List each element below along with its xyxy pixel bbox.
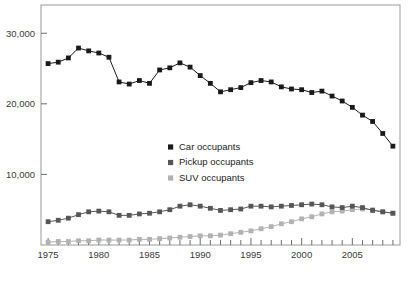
data-point-marker <box>259 204 264 209</box>
data-point-marker <box>76 238 81 243</box>
data-point-marker <box>46 219 51 224</box>
data-point-marker <box>86 238 91 243</box>
data-point-marker <box>56 60 61 65</box>
data-point-marker <box>238 207 243 212</box>
data-point-marker <box>279 204 284 209</box>
data-point-marker <box>218 233 223 238</box>
data-point-marker <box>279 84 284 89</box>
y-tick-label: 10,000 <box>6 169 35 180</box>
x-tick-label: 2000 <box>291 249 312 260</box>
data-point-marker <box>188 202 193 207</box>
data-point-marker <box>360 113 365 118</box>
data-point-marker <box>117 213 122 218</box>
data-point-marker <box>66 216 71 221</box>
data-point-marker <box>56 218 61 223</box>
data-point-marker <box>86 48 91 53</box>
data-point-marker <box>198 204 203 209</box>
data-point-marker <box>370 119 375 124</box>
data-point-marker <box>330 94 335 99</box>
data-point-marker <box>56 239 61 244</box>
y-tick-label: 20,000 <box>6 98 35 109</box>
data-point-marker <box>350 204 355 209</box>
data-point-marker <box>188 65 193 70</box>
data-point-marker <box>350 105 355 110</box>
data-point-marker <box>96 238 101 243</box>
legend-item: Car occupants <box>168 141 241 152</box>
data-point-marker <box>147 237 152 242</box>
data-point-marker <box>188 234 193 239</box>
data-point-marker <box>157 209 162 214</box>
data-point-marker <box>107 55 112 60</box>
data-point-marker <box>299 202 304 207</box>
data-point-marker <box>340 205 345 210</box>
data-point-marker <box>127 238 132 243</box>
line-chart: 10,00020,00030,000 197519801985199019952… <box>0 0 411 281</box>
data-point-marker <box>66 239 71 244</box>
data-point-marker <box>309 90 314 95</box>
data-point-marker <box>127 82 132 87</box>
x-tick-label: 1995 <box>240 249 261 260</box>
data-point-marker <box>117 80 122 85</box>
data-point-marker <box>309 202 314 207</box>
figure-container: 10,00020,00030,000 197519801985199019952… <box>0 0 411 281</box>
data-point-marker <box>380 131 385 136</box>
data-point-marker <box>178 204 183 209</box>
x-tick-label: 1985 <box>139 249 160 260</box>
data-point-marker <box>208 81 213 86</box>
data-point-marker <box>76 46 81 51</box>
data-point-marker <box>228 207 233 212</box>
legend-swatch <box>168 175 173 180</box>
data-point-marker <box>259 78 264 83</box>
data-point-marker <box>320 212 325 217</box>
data-point-marker <box>238 230 243 235</box>
data-point-marker <box>330 209 335 214</box>
data-point-marker <box>391 211 396 216</box>
legend-item: Pickup occupants <box>168 156 254 167</box>
data-point-marker <box>178 235 183 240</box>
legend-item: SUV occupants <box>168 172 245 183</box>
data-point-marker <box>127 213 132 218</box>
data-point-marker <box>137 78 142 83</box>
data-point-marker <box>66 56 71 61</box>
x-tick-label: 2005 <box>342 249 363 260</box>
data-point-marker <box>137 237 142 242</box>
data-point-marker <box>107 238 112 243</box>
data-point-marker <box>96 51 101 56</box>
data-point-marker <box>320 202 325 207</box>
data-point-marker <box>46 61 51 66</box>
data-point-marker <box>391 144 396 149</box>
data-point-marker <box>289 87 294 92</box>
data-point-marker <box>147 81 152 86</box>
x-tick-label: 1975 <box>38 249 59 260</box>
data-point-marker <box>320 89 325 94</box>
data-point-marker <box>249 204 254 209</box>
data-point-marker <box>198 233 203 238</box>
data-point-marker <box>218 89 223 94</box>
data-point-marker <box>269 204 274 209</box>
legend-swatch <box>168 144 173 149</box>
data-point-marker <box>208 233 213 238</box>
data-point-marker <box>289 219 294 224</box>
data-point-marker <box>259 226 264 231</box>
data-point-marker <box>228 87 233 92</box>
data-point-marker <box>137 212 142 217</box>
data-point-marker <box>380 209 385 214</box>
data-point-marker <box>309 214 314 219</box>
legend-label: Pickup occupants <box>179 156 254 167</box>
data-point-marker <box>167 65 172 70</box>
data-point-marker <box>269 80 274 85</box>
x-tick-label: 1980 <box>88 249 109 260</box>
data-point-marker <box>117 238 122 243</box>
data-point-marker <box>279 221 284 226</box>
data-point-marker <box>249 228 254 233</box>
x-tick-label: 1990 <box>190 249 211 260</box>
data-point-marker <box>107 209 112 214</box>
data-point-marker <box>147 211 152 216</box>
data-point-marker <box>167 236 172 241</box>
data-point-marker <box>76 212 81 217</box>
data-point-marker <box>167 207 172 212</box>
data-point-marker <box>228 231 233 236</box>
y-tick-label: 30,000 <box>6 28 35 39</box>
data-point-marker <box>208 206 213 211</box>
data-point-marker <box>157 68 162 73</box>
